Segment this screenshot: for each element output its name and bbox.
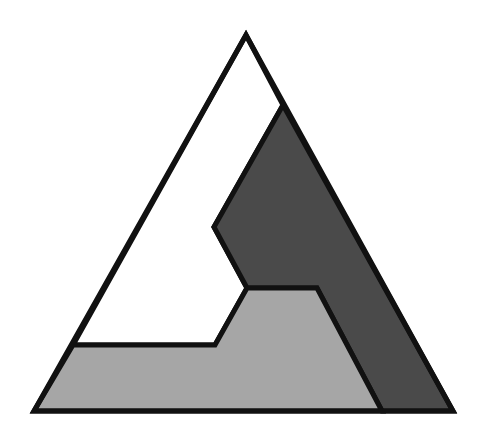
regions-group xyxy=(34,35,453,411)
triangle-diagram xyxy=(0,0,477,436)
